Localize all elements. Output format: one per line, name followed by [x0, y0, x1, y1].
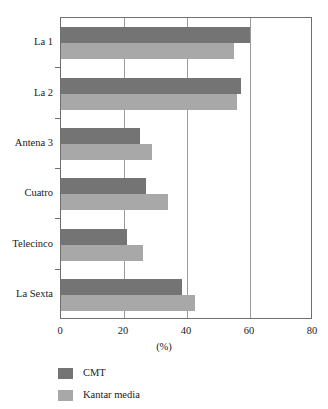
bar-kantar-media-la-sexta — [61, 295, 195, 311]
bar-cmt-telecinco — [61, 229, 127, 245]
bar-chart-figure: La 1La 2Antena 3CuatroTelecincoLa Sexta … — [0, 0, 328, 409]
x-axis: 020406080 — [0, 319, 328, 343]
bar-group — [61, 128, 311, 160]
legend-label: Kantar media — [83, 389, 140, 401]
y-tick-label-telecinco: Telecinco — [12, 238, 53, 250]
y-tick-label-cuatro: Cuatro — [24, 187, 53, 199]
x-tick-label-20: 20 — [118, 325, 129, 337]
bar-cmt-cuatro — [61, 178, 146, 194]
bar-cmt-la-1 — [61, 27, 250, 43]
bar-kantar-media-telecinco — [61, 245, 143, 261]
bar-group — [61, 27, 311, 59]
legend-item: CMT — [58, 362, 298, 384]
legend-item: Kantar media — [58, 384, 298, 406]
y-axis: La 1La 2Antena 3CuatroTelecincoLa Sexta — [0, 17, 60, 319]
y-tick-label-antena-3: Antena 3 — [15, 137, 53, 149]
x-axis-title: (%) — [0, 341, 328, 352]
plot-area — [60, 17, 312, 319]
bar-cmt-antena-3 — [61, 128, 140, 144]
y-tick-label-la-sexta: La Sexta — [16, 288, 53, 300]
bar-kantar-media-cuatro — [61, 194, 168, 210]
bar-kantar-media-antena-3 — [61, 144, 152, 160]
legend-swatch-icon — [58, 390, 73, 401]
legend-swatch-icon — [58, 368, 73, 379]
bar-group — [61, 279, 311, 311]
bar-group — [61, 229, 311, 261]
bar-kantar-media-la-1 — [61, 43, 234, 59]
bar-cmt-la-2 — [61, 78, 241, 94]
y-tick-label-la-1: La 1 — [34, 36, 53, 48]
chart-legend: CMTKantar media — [58, 362, 298, 406]
bar-group — [61, 78, 311, 110]
x-tick-label-0: 0 — [57, 325, 62, 337]
bar-kantar-media-la-2 — [61, 94, 237, 110]
x-tick-label-80: 80 — [307, 325, 318, 337]
bar-group — [61, 178, 311, 210]
bar-cmt-la-sexta — [61, 279, 182, 295]
x-tick-label-40: 40 — [181, 325, 192, 337]
legend-label: CMT — [83, 367, 106, 379]
bars-layer — [61, 18, 311, 318]
y-tick-label-la-2: La 2 — [34, 87, 53, 99]
x-tick-label-60: 60 — [244, 325, 255, 337]
